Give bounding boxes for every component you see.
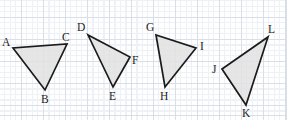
- figure-svg: ABCDEFGHIJKL: [0, 0, 287, 120]
- vertex-label-f: F: [132, 54, 138, 66]
- vertex-label-d: D: [77, 21, 85, 33]
- triangle-abc: [13, 44, 67, 90]
- triangle-jkl: [222, 37, 268, 105]
- vertex-label-l: L: [268, 23, 275, 35]
- vertex-label-j: J: [212, 63, 217, 75]
- vertex-label-k: K: [242, 107, 251, 119]
- vertex-label-b: B: [41, 93, 49, 105]
- vertex-label-g: G: [146, 21, 154, 33]
- vertex-label-e: E: [109, 90, 116, 102]
- vertex-label-i: I: [200, 40, 204, 52]
- triangle-def: [88, 35, 130, 87]
- vertex-label-a: A: [2, 36, 11, 48]
- figure-canvas: ABCDEFGHIJKL: [0, 0, 287, 120]
- vertex-label-h: H: [160, 90, 168, 102]
- triangle-ghi: [156, 35, 196, 87]
- triangles-group: [13, 35, 268, 105]
- vertex-label-c: C: [62, 31, 70, 43]
